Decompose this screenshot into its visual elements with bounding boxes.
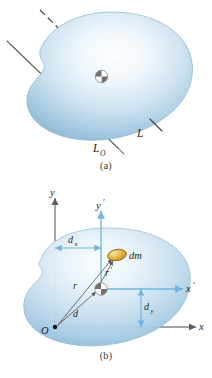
label-axis-y-prime-mark: ′ bbox=[103, 197, 106, 207]
caption-b: (b) bbox=[0, 350, 212, 361]
label-r-prime-mark: ′ bbox=[110, 265, 112, 275]
origin-dot bbox=[53, 325, 57, 329]
irregular-body-a bbox=[27, 12, 193, 140]
label-dm: dm bbox=[129, 250, 142, 261]
center-of-mass-marker-b bbox=[95, 283, 108, 296]
label-axis-x-prime-mark: ′ bbox=[193, 280, 196, 290]
label-axis-y: y bbox=[49, 187, 55, 198]
label-axis-LO: L O bbox=[92, 142, 106, 158]
label-origin: O bbox=[41, 325, 49, 336]
label-axis-L: L bbox=[136, 127, 143, 139]
caption-a: (a) bbox=[0, 160, 212, 171]
label-r-prime: r bbox=[105, 267, 109, 278]
label-axis-LO-main: L bbox=[92, 142, 99, 154]
label-axis-x-prime: x bbox=[185, 283, 191, 294]
axis-LO-solid-front bbox=[118, 148, 124, 154]
label-axis-y-prime: y bbox=[95, 200, 101, 211]
center-of-mass-marker-a bbox=[95, 70, 108, 83]
label-axis-LO-subscript: O bbox=[100, 149, 106, 158]
label-axis-x: x bbox=[198, 321, 204, 332]
label-r: r bbox=[73, 280, 77, 291]
